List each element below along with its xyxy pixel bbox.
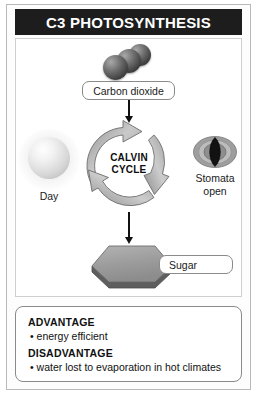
- stomata-label-line2: open: [186, 185, 244, 198]
- sun-icon: [28, 137, 70, 179]
- calvin-cycle-label-line2: CYCLE: [82, 164, 176, 176]
- sugar-label-text: Sugar: [169, 259, 197, 271]
- stomata-group: Stomata open: [186, 134, 244, 194]
- figure-title-bar: C3 PHOTOSYNTHESIS: [15, 9, 242, 35]
- figure-title: C3 PHOTOSYNTHESIS: [46, 14, 211, 31]
- arrow-cycle-to-sugar-shaft: [128, 212, 130, 239]
- day-label: Day: [18, 190, 80, 202]
- carbon-dioxide-label-text: Carbon dioxide: [93, 85, 164, 97]
- stomata-label: Stomata open: [186, 172, 244, 197]
- advantage-disadvantage-box: ADVANTAGE • energy efficient DISADVANTAG…: [15, 306, 242, 382]
- disadvantage-heading: DISADVANTAGE: [28, 347, 229, 360]
- advantage-item: • energy efficient: [28, 329, 229, 343]
- disadvantage-item: • water lost to evaporation in hot clima…: [28, 360, 229, 374]
- sugar-label: Sugar: [159, 255, 233, 274]
- stomata-icon: [193, 134, 237, 170]
- advantage-heading: ADVANTAGE: [28, 316, 229, 329]
- calvin-cycle-label: CALVIN CYCLE: [82, 152, 176, 176]
- calvin-cycle-group: CALVIN CYCLE: [82, 118, 176, 214]
- molecule-sphere: [103, 55, 128, 80]
- stomata-label-line1: Stomata: [186, 172, 244, 185]
- day-group: Day: [18, 129, 80, 191]
- carbon-dioxide-label: Carbon dioxide: [82, 81, 175, 100]
- co2-molecule-icon: [103, 44, 165, 84]
- calvin-cycle-label-line1: CALVIN: [82, 152, 176, 164]
- c3-photosynthesis-figure: C3 PHOTOSYNTHESIS Carbon dioxide: [0, 0, 259, 397]
